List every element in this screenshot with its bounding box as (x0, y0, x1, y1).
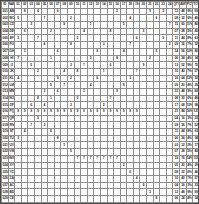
empty-cell[interactable] (153, 142, 160, 149)
row-label-cell[interactable]: BD (8, 189, 15, 196)
data-cell[interactable]: 9 (94, 48, 101, 55)
column-header-cell[interactable]: PCT (186, 2, 193, 9)
summary-cell[interactable]: 92 (193, 75, 199, 82)
empty-cell[interactable] (34, 88, 41, 95)
summary-cell[interactable]: 4% (186, 55, 193, 62)
summary-cell[interactable]: 14 (173, 48, 180, 55)
empty-cell[interactable] (61, 162, 68, 169)
empty-cell[interactable] (140, 82, 147, 89)
empty-cell[interactable] (114, 135, 121, 142)
empty-cell[interactable] (28, 175, 35, 182)
data-cell[interactable]: 6 (153, 15, 160, 22)
summary-cell[interactable]: 20 (180, 162, 187, 169)
row-label-cell[interactable]: 006 (2, 42, 9, 49)
summary-cell[interactable]: 48 (180, 189, 187, 196)
column-header-cell[interactable]: 19 (133, 2, 140, 9)
row-label-cell[interactable]: XY (8, 162, 15, 169)
column-header-cell[interactable]: 04 (34, 2, 41, 9)
empty-cell[interactable] (94, 115, 101, 122)
empty-cell[interactable] (54, 68, 61, 75)
data-cell[interactable]: 6 (107, 62, 114, 69)
summary-cell[interactable]: 7% (186, 175, 193, 182)
empty-cell[interactable] (48, 48, 55, 55)
empty-cell[interactable] (94, 95, 101, 102)
empty-cell[interactable] (87, 15, 94, 22)
summary-cell[interactable]: 17 (173, 102, 180, 109)
empty-cell[interactable] (133, 55, 140, 62)
data-cell[interactable]: 9 (54, 109, 61, 116)
empty-cell[interactable] (127, 88, 134, 95)
empty-cell[interactable] (160, 95, 167, 102)
empty-cell[interactable] (94, 35, 101, 42)
empty-cell[interactable] (54, 182, 61, 189)
data-cell[interactable]: 2 (48, 28, 55, 35)
summary-cell[interactable]: 121 (193, 109, 199, 116)
empty-cell[interactable] (41, 22, 48, 29)
empty-cell[interactable] (34, 62, 41, 69)
column-header-cell[interactable]: 18 (127, 2, 134, 9)
empty-cell[interactable] (127, 189, 134, 196)
empty-cell[interactable] (107, 149, 114, 156)
empty-cell[interactable] (34, 75, 41, 82)
empty-cell[interactable] (74, 55, 81, 62)
column-header-cell[interactable]: 23 (160, 2, 167, 9)
summary-cell[interactable]: 12% (186, 75, 193, 82)
row-label-cell[interactable]: 023 (2, 155, 9, 162)
empty-cell[interactable] (120, 42, 127, 49)
empty-cell[interactable] (67, 135, 74, 142)
summary-cell[interactable]: 12 (173, 189, 180, 196)
row-label-cell[interactable]: QR (8, 115, 15, 122)
column-header-cell[interactable]: TOT (193, 2, 199, 9)
summary-cell[interactable]: 09 (173, 42, 180, 49)
empty-cell[interactable] (21, 169, 28, 176)
empty-cell[interactable] (100, 142, 107, 149)
data-cell[interactable]: 3 (41, 88, 48, 95)
data-cell[interactable]: 7 (41, 15, 48, 22)
summary-cell[interactable]: 40 (193, 28, 199, 35)
empty-cell[interactable] (28, 35, 35, 42)
empty-cell[interactable] (147, 15, 154, 22)
empty-cell[interactable] (15, 28, 22, 35)
empty-cell[interactable] (120, 55, 127, 62)
row-label-cell[interactable]: 017 (2, 115, 9, 122)
empty-cell[interactable] (74, 42, 81, 49)
empty-cell[interactable] (67, 129, 74, 136)
summary-cell[interactable]: 12 (180, 142, 187, 149)
summary-cell[interactable]: 06 (173, 195, 180, 202)
summary-cell[interactable]: 69 (193, 189, 199, 196)
empty-cell[interactable] (54, 162, 61, 169)
column-header-cell[interactable]: 01 (15, 2, 22, 9)
empty-cell[interactable] (100, 122, 107, 129)
empty-cell[interactable] (100, 8, 107, 15)
summary-cell[interactable]: 28 (180, 149, 187, 156)
empty-cell[interactable] (67, 155, 74, 162)
summary-cell[interactable]: 36 (180, 202, 187, 204)
empty-cell[interactable] (94, 28, 101, 35)
data-cell[interactable]: 2 (34, 68, 41, 75)
data-cell[interactable]: 2 (41, 122, 48, 129)
summary-cell[interactable]: 46 (193, 15, 199, 22)
data-cell[interactable]: 9 (81, 109, 88, 116)
empty-cell[interactable] (67, 95, 74, 102)
empty-cell[interactable] (34, 122, 41, 129)
empty-cell[interactable] (100, 75, 107, 82)
empty-cell[interactable] (41, 155, 48, 162)
empty-cell[interactable] (140, 109, 147, 116)
empty-cell[interactable] (160, 75, 167, 82)
column-header-cell[interactable]: 02 (21, 2, 28, 9)
spreadsheet-grid[interactable]: IDNAME0102030405060708091011121314151617… (0, 0, 199, 204)
empty-cell[interactable] (15, 42, 22, 49)
empty-cell[interactable] (147, 182, 154, 189)
data-cell[interactable]: 2 (147, 55, 154, 62)
summary-cell[interactable]: 69 (193, 8, 199, 15)
empty-cell[interactable] (67, 28, 74, 35)
empty-cell[interactable] (81, 95, 88, 102)
empty-cell[interactable] (74, 169, 81, 176)
empty-cell[interactable] (34, 135, 41, 142)
empty-cell[interactable] (114, 68, 121, 75)
empty-cell[interactable] (87, 42, 94, 49)
empty-cell[interactable] (28, 155, 35, 162)
row-label-cell[interactable]: LM (8, 82, 15, 89)
empty-cell[interactable] (15, 62, 22, 69)
empty-cell[interactable] (153, 55, 160, 62)
